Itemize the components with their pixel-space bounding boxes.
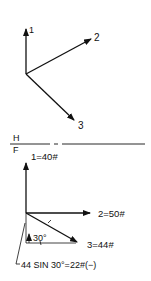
vector-3-label: 3	[78, 120, 84, 131]
vector-1-label: 1	[29, 25, 34, 35]
leader-line	[16, 223, 25, 264]
fold-label-h: H	[13, 133, 20, 143]
vector-3-label: 3=44#	[87, 239, 114, 250]
vector-2-label: 2=50#	[98, 208, 125, 219]
tick-mark	[48, 220, 51, 223]
vector-1-label: 1=40#	[31, 151, 58, 162]
fold-label-f: F	[13, 145, 19, 155]
force-vector-diagram: 1 2 3 H F 1=40# 2=50# 3=44# 30° 44 SIN 3…	[0, 0, 151, 281]
top-view: 1 2 3	[26, 25, 100, 131]
vector-2-label: 2	[94, 32, 100, 43]
vector-3-arrow	[26, 74, 74, 120]
angle-label: 30°	[33, 233, 47, 243]
component-note: 44 SIN 30°=22#(−)	[21, 260, 96, 270]
vector-2-arrow	[26, 39, 91, 74]
front-view: 1=40# 2=50# 3=44# 30° 44 SIN 30°=22#(−)	[16, 151, 125, 270]
